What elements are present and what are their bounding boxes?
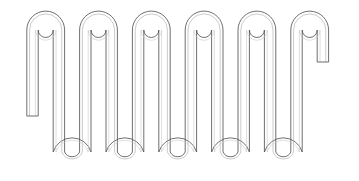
background-rect: [0, 0, 359, 181]
drawing-canvas: Serpentine coiled tube line drawing A si…: [0, 0, 359, 181]
serpentine-tube-figure: Serpentine coiled tube line drawing A si…: [0, 0, 359, 181]
